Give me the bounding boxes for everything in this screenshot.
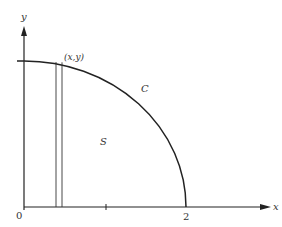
- y-axis: [21, 26, 27, 210]
- x-axis-arrow-icon: [260, 204, 271, 210]
- x-tick-label-2: 2: [183, 211, 189, 222]
- curve-c: [17, 61, 186, 207]
- origin-label: 0: [16, 210, 22, 221]
- x-axis-label: x: [273, 201, 279, 212]
- strip: [56, 62, 62, 207]
- diagram-canvas: y x 0 2 (x,y) C S: [0, 0, 282, 227]
- point-label: (x,y): [64, 52, 85, 62]
- y-axis-arrow-icon: [21, 26, 27, 36]
- y-axis-label: y: [20, 11, 27, 22]
- region-label: S: [100, 136, 107, 147]
- curve-label: C: [141, 83, 149, 94]
- x-axis: [24, 204, 271, 210]
